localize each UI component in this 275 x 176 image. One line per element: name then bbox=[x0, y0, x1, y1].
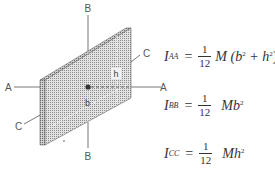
axis-b-label-top: B bbox=[85, 3, 92, 14]
eq-bb-rhs: Mb2 bbox=[221, 98, 243, 114]
eq-bb-fraction: 1 12 bbox=[198, 93, 211, 118]
equation-i-aa: IAA = 1 12 M (b2 + h2) bbox=[164, 44, 275, 69]
eq-bb-rhs-pre: Mb bbox=[221, 98, 240, 113]
eq-cc-subscript: CC bbox=[169, 149, 180, 158]
stray-dot bbox=[63, 140, 65, 142]
plate-left-edge bbox=[40, 80, 45, 145]
eq-cc-rhs-pre: Mh bbox=[222, 146, 241, 161]
eq-cc-rhs: Mh2 bbox=[222, 146, 244, 162]
axis-c-label-right: C bbox=[143, 48, 150, 59]
axis-b-label-bottom: B bbox=[85, 151, 92, 162]
eq-aa-fraction: 1 12 bbox=[198, 44, 211, 69]
center-of-mass-dot bbox=[85, 84, 90, 89]
dimension-b-label: b bbox=[85, 98, 90, 108]
eq-aa-rhs: M (b2 + h2) bbox=[215, 49, 275, 65]
dimension-h-label: h bbox=[114, 69, 119, 79]
eq-aa-numerator: 1 bbox=[201, 44, 209, 55]
eq-aa-mid: + h bbox=[246, 49, 269, 64]
eq-aa-rhs-post: ) bbox=[273, 49, 275, 64]
eq-cc-equals: = bbox=[185, 146, 193, 162]
axis-a-label-right: A bbox=[160, 82, 167, 93]
axis-c-line-right bbox=[131, 55, 140, 62]
equation-i-bb: IBB = 1 12 Mb2 bbox=[164, 93, 244, 118]
eq-cc-fraction: 1 12 bbox=[199, 141, 212, 166]
axis-c-label-left: C bbox=[15, 121, 22, 132]
eq-bb-sup1: 2 bbox=[240, 99, 244, 107]
eq-aa-equals: = bbox=[184, 49, 192, 65]
eq-bb-equals: = bbox=[184, 98, 192, 114]
axis-c-line-left bbox=[24, 114, 42, 124]
eq-cc-denominator: 12 bbox=[200, 155, 211, 166]
eq-cc-sup1: 2 bbox=[241, 147, 245, 155]
eq-aa-subscript: AA bbox=[169, 52, 179, 61]
eq-bb-subscript: BB bbox=[169, 101, 179, 110]
axis-a-label-left: A bbox=[5, 82, 12, 93]
eq-bb-numerator: 1 bbox=[201, 93, 209, 104]
eq-cc-numerator: 1 bbox=[202, 141, 210, 152]
eq-bb-denominator: 12 bbox=[199, 107, 210, 118]
equation-i-cc: ICC = 1 12 Mh2 bbox=[164, 141, 244, 166]
eq-aa-denominator: 12 bbox=[199, 58, 210, 69]
eq-aa-rhs-pre: M (b bbox=[215, 49, 242, 64]
